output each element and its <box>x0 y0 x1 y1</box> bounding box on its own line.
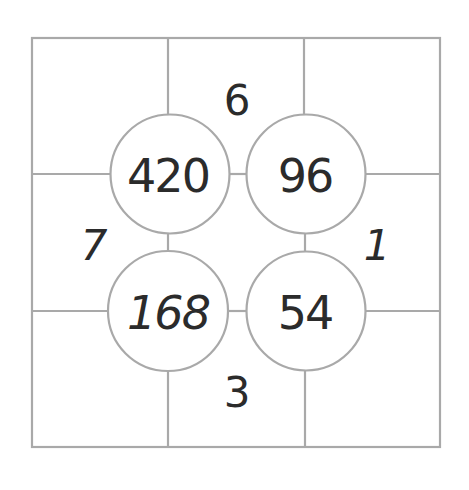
circle-value-top-right: 96 <box>278 153 333 199</box>
circle-value-bottom-right: 54 <box>278 290 333 336</box>
edge-value-top: 6 <box>224 80 251 122</box>
circle-value-top-left: 420 <box>127 153 209 199</box>
circle-value-bottom-left: 168 <box>127 290 209 336</box>
edge-value-right: 1 <box>364 225 391 267</box>
edge-value-bottom: 3 <box>224 372 251 414</box>
edge-value-left: 7 <box>81 225 108 267</box>
